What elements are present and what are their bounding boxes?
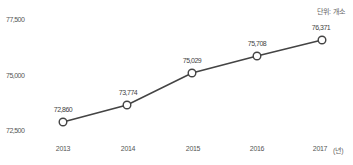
data-line: [63, 40, 322, 122]
x-axis-unit: (년): [333, 145, 344, 155]
x-tick-2015: 2015: [186, 145, 200, 152]
data-label-2016: 75,708: [248, 40, 266, 47]
data-label-2017: 76,371: [312, 24, 330, 31]
data-point-2017: [318, 36, 326, 44]
x-tick-2014: 2014: [121, 145, 135, 152]
data-point-2016: [253, 52, 261, 60]
x-tick-2013: 2013: [56, 145, 70, 152]
data-label-2014: 73,774: [119, 89, 137, 96]
x-tick-2016: 2016: [250, 145, 264, 152]
data-point-2013: [59, 118, 67, 126]
data-label-2013: 72,860: [54, 106, 72, 113]
x-tick-2017: 2017: [313, 145, 327, 152]
data-point-2015: [188, 69, 196, 77]
line-plot: [0, 0, 353, 165]
data-label-2015: 75,029: [183, 57, 201, 64]
data-point-2014: [123, 101, 131, 109]
